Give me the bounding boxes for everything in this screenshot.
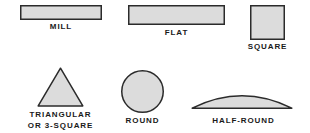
rectangle-icon — [128, 5, 225, 25]
shape-mill — [20, 5, 102, 20]
half-round-icon — [191, 86, 293, 110]
file-shapes-diagram: MILL FLAT SQUARE TRIANGULAR OR 3-SQUARE … — [0, 0, 310, 133]
shape-label-triangular: TRIANGULAR OR 3-SQUARE — [8, 110, 113, 131]
triangle-icon — [37, 67, 84, 107]
square-icon — [250, 5, 285, 40]
shape-label-round: ROUND — [113, 116, 172, 127]
shape-flat — [128, 5, 225, 25]
shape-triangular — [37, 67, 84, 107]
shape-square — [250, 5, 285, 40]
shape-label-halfround: HALF-ROUND — [193, 116, 294, 127]
shape-round — [121, 70, 164, 113]
shape-label-mill: MILL — [10, 22, 112, 33]
shape-halfround — [191, 86, 293, 110]
circle-icon — [121, 70, 164, 113]
thin-rectangle-icon — [20, 5, 102, 20]
shape-label-flat: FLAT — [118, 28, 235, 39]
shape-label-square: SQUARE — [237, 42, 298, 53]
